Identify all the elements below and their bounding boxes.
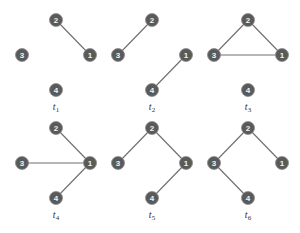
- node-2: 2: [50, 14, 63, 27]
- svg-text:1: 1: [184, 51, 189, 60]
- time-step-label: t4: [53, 209, 60, 222]
- edge-1-4: [152, 163, 186, 198]
- edge-2-1: [56, 20, 90, 55]
- svg-text:4: 4: [150, 194, 155, 203]
- node-4: 4: [146, 84, 159, 97]
- svg-text:4: 4: [150, 86, 155, 95]
- node-2: 2: [146, 14, 159, 27]
- node-3: 3: [16, 49, 29, 62]
- edge-3-4: [214, 163, 248, 198]
- time-step-label: t5: [149, 209, 156, 222]
- node-1: 1: [180, 157, 193, 170]
- node-2: 2: [242, 14, 255, 27]
- temporal-graph-figure: 1234t11234t21234t31234t41234t51234t6: [0, 0, 300, 233]
- node-1: 1: [84, 49, 97, 62]
- svg-text:1: 1: [280, 51, 285, 60]
- node-4: 4: [242, 192, 255, 205]
- node-2: 2: [146, 122, 159, 135]
- svg-text:3: 3: [20, 51, 25, 60]
- panel-t4: 1234t4: [16, 122, 97, 223]
- graph-canvas: 1234t11234t21234t31234t41234t51234t6: [0, 0, 300, 233]
- node-3: 3: [16, 157, 29, 170]
- edge-2-1: [248, 20, 282, 55]
- edge-2-3: [214, 20, 248, 55]
- svg-text:2: 2: [246, 124, 251, 133]
- edge-3-2: [118, 128, 152, 163]
- panel-t2: 1234t2: [112, 14, 193, 115]
- node-1: 1: [276, 157, 289, 170]
- node-3: 3: [208, 157, 221, 170]
- panel-t3: 1234t3: [208, 14, 289, 115]
- edge-2-1: [248, 128, 282, 163]
- node-1: 1: [180, 49, 193, 62]
- node-1: 1: [276, 49, 289, 62]
- time-step-label: t1: [53, 101, 60, 114]
- node-2: 2: [50, 122, 63, 135]
- svg-text:4: 4: [54, 194, 59, 203]
- svg-text:3: 3: [212, 51, 217, 60]
- time-step-label: t3: [245, 101, 252, 114]
- svg-text:2: 2: [54, 124, 59, 133]
- svg-text:4: 4: [246, 194, 251, 203]
- svg-text:2: 2: [150, 124, 155, 133]
- node-2: 2: [242, 122, 255, 135]
- svg-text:1: 1: [280, 159, 285, 168]
- edge-3-2: [118, 20, 152, 55]
- node-3: 3: [208, 49, 221, 62]
- node-4: 4: [242, 84, 255, 97]
- panel-t1: 1234t1: [16, 14, 97, 115]
- svg-text:2: 2: [150, 16, 155, 25]
- svg-text:2: 2: [246, 16, 251, 25]
- edge-2-1: [56, 128, 90, 163]
- svg-text:3: 3: [20, 159, 25, 168]
- node-3: 3: [112, 157, 125, 170]
- svg-text:3: 3: [116, 51, 121, 60]
- time-step-label: t2: [149, 101, 156, 114]
- svg-text:4: 4: [54, 86, 59, 95]
- svg-text:4: 4: [246, 86, 251, 95]
- node-4: 4: [50, 192, 63, 205]
- svg-text:1: 1: [184, 159, 189, 168]
- edge-3-2: [214, 128, 248, 163]
- node-1: 1: [84, 157, 97, 170]
- svg-text:3: 3: [116, 159, 121, 168]
- svg-text:3: 3: [212, 159, 217, 168]
- panel-t6: 1234t6: [208, 122, 289, 223]
- time-step-label: t6: [245, 209, 252, 222]
- edge-4-1: [56, 163, 90, 198]
- svg-text:2: 2: [54, 16, 59, 25]
- svg-text:1: 1: [88, 159, 93, 168]
- node-4: 4: [146, 192, 159, 205]
- edge-4-1: [152, 55, 186, 90]
- node-3: 3: [112, 49, 125, 62]
- node-4: 4: [50, 84, 63, 97]
- panel-t5: 1234t5: [112, 122, 193, 223]
- svg-text:1: 1: [88, 51, 93, 60]
- edge-2-1: [152, 128, 186, 163]
